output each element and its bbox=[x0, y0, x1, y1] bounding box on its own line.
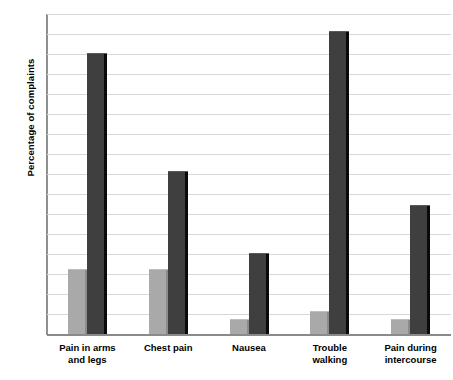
gridline-40 bbox=[47, 174, 451, 175]
bar-light-0 bbox=[68, 269, 87, 334]
gridline-70 bbox=[47, 54, 451, 55]
x-axis-label-line: intercourse bbox=[356, 354, 453, 366]
x-axis-label-line: Pain during bbox=[356, 342, 453, 354]
bar-light-3 bbox=[310, 311, 329, 334]
gridline-0 bbox=[47, 334, 451, 336]
gridline-25 bbox=[47, 234, 451, 235]
gridline-75 bbox=[47, 34, 451, 35]
bar-dark-0 bbox=[87, 53, 107, 334]
bar-light-1 bbox=[149, 269, 168, 334]
gridline-60 bbox=[47, 94, 451, 95]
gridline-35 bbox=[47, 194, 451, 195]
gridline-45 bbox=[47, 154, 451, 155]
bar-light-2 bbox=[230, 319, 249, 334]
bar-dark-1 bbox=[168, 171, 188, 334]
gridline-30 bbox=[47, 214, 451, 215]
x-axis-label-line: and legs bbox=[32, 354, 142, 366]
gridline-80 bbox=[47, 14, 451, 15]
y-axis-title: Percentage of complaints bbox=[25, 28, 36, 208]
gridline-50 bbox=[47, 134, 451, 135]
gridline-65 bbox=[47, 74, 451, 75]
bar-light-4 bbox=[391, 319, 410, 334]
x-axis-label-4: Pain duringintercourse bbox=[356, 342, 453, 366]
gridline-55 bbox=[47, 114, 451, 115]
bar-dark-3 bbox=[329, 31, 349, 334]
bar-dark-4 bbox=[410, 205, 430, 334]
bar-chart: Percentage of complaints 807570656055504… bbox=[0, 0, 453, 380]
bar-dark-2 bbox=[249, 253, 269, 334]
plot-inner bbox=[47, 14, 451, 334]
plot-area bbox=[47, 14, 451, 334]
